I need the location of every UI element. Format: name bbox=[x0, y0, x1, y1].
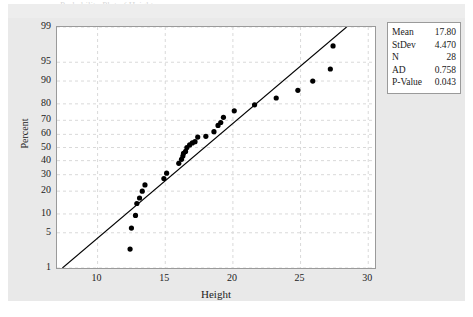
cut-off-title-remnant: Probability Plot of Height bbox=[60, 0, 240, 4]
statistic-value: 0.758 bbox=[435, 64, 456, 77]
statistic-value: 4.470 bbox=[435, 39, 456, 52]
y-axis-tick-label: 40 bbox=[29, 155, 51, 165]
statistic-row: AD0.758 bbox=[392, 64, 456, 77]
y-axis-tick-label: 50 bbox=[29, 142, 51, 152]
canvas-top-wash bbox=[8, 4, 465, 18]
x-axis-tick-label: 10 bbox=[82, 273, 112, 283]
x-axis-tick-label: 15 bbox=[149, 273, 179, 283]
statistic-label: N bbox=[392, 51, 399, 64]
y-axis-tick-label: 1 bbox=[29, 262, 51, 272]
data-point bbox=[252, 102, 257, 107]
x-axis-tick-label: 25 bbox=[285, 273, 315, 283]
y-axis-tick-label: 20 bbox=[29, 185, 51, 195]
x-axis-tick-label: 20 bbox=[217, 273, 247, 283]
data-point bbox=[310, 78, 315, 83]
data-point bbox=[161, 176, 166, 181]
y-axis-tick-label: 30 bbox=[29, 169, 51, 179]
data-point bbox=[211, 129, 216, 134]
plot-area bbox=[56, 26, 376, 269]
data-point bbox=[274, 95, 279, 100]
x-axis-tick-label: 30 bbox=[352, 273, 382, 283]
data-point bbox=[328, 66, 333, 71]
y-axis-tick-label: 5 bbox=[29, 227, 51, 237]
data-point bbox=[134, 201, 139, 206]
data-point bbox=[142, 182, 147, 187]
data-point bbox=[133, 213, 138, 218]
x-axis-title: Height bbox=[56, 288, 376, 300]
y-axis-tick-label: 10 bbox=[29, 208, 51, 218]
statistic-value: 17.80 bbox=[435, 26, 456, 39]
statistic-row: Mean17.80 bbox=[392, 26, 456, 39]
y-axis-tick-label: 60 bbox=[29, 128, 51, 138]
data-point bbox=[203, 134, 208, 139]
y-axis-tick-label: 99 bbox=[29, 21, 51, 31]
data-point bbox=[195, 134, 200, 139]
data-point bbox=[192, 139, 197, 144]
statistic-row: StDev4.470 bbox=[392, 39, 456, 52]
data-point bbox=[232, 108, 237, 113]
statistics-legend-box: Mean17.80StDev4.470N28AD0.758P-Value0.04… bbox=[387, 22, 461, 94]
data-point bbox=[129, 226, 134, 231]
y-axis-tick-label: 70 bbox=[29, 114, 51, 124]
statistic-value: 0.043 bbox=[435, 76, 456, 89]
data-point bbox=[140, 189, 145, 194]
statistic-label: StDev bbox=[392, 39, 416, 52]
data-point bbox=[221, 115, 226, 120]
data-point bbox=[164, 171, 169, 176]
statistic-label: Mean bbox=[392, 26, 414, 39]
y-axis-tick-label: 80 bbox=[29, 98, 51, 108]
y-axis-title: Percent bbox=[19, 104, 30, 164]
statistic-row: P-Value0.043 bbox=[392, 76, 456, 89]
plot-svg bbox=[57, 27, 375, 268]
data-point bbox=[295, 88, 300, 93]
data-point bbox=[137, 195, 142, 200]
probability-plot-screenshot: Probability Plot of Height 1510203040506… bbox=[0, 0, 473, 317]
statistic-label: AD bbox=[392, 64, 406, 77]
data-point bbox=[127, 246, 132, 251]
y-axis-tick-label: 90 bbox=[29, 75, 51, 85]
y-axis-tick-label: 95 bbox=[29, 56, 51, 66]
data-point bbox=[218, 120, 223, 125]
statistic-row: N28 bbox=[392, 51, 456, 64]
statistic-label: P-Value bbox=[392, 76, 422, 89]
statistic-value: 28 bbox=[447, 51, 457, 64]
data-point bbox=[330, 43, 335, 48]
